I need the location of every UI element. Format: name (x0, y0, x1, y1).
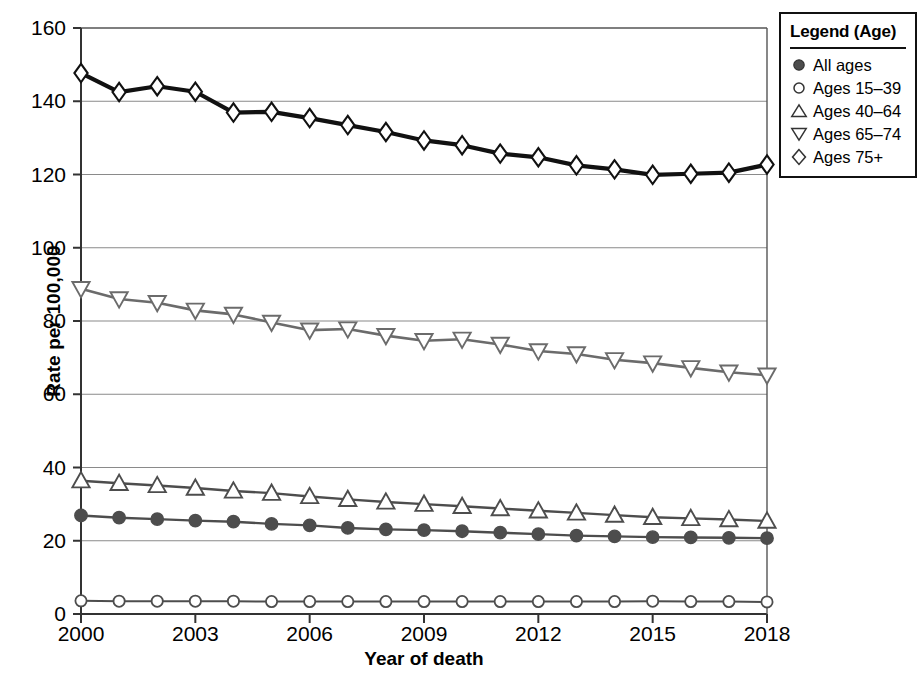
data-point-open-circle (723, 596, 734, 607)
series-ages-15-39 (75, 595, 772, 607)
data-point-filled-circle (189, 514, 201, 526)
x-tick-label: 2009 (379, 622, 469, 645)
data-point-open-circle (571, 596, 582, 607)
marker-open-circle (304, 596, 315, 607)
y-tick-label: 140 (6, 90, 66, 111)
data-point-diamond (608, 160, 621, 178)
data-point-diamond (265, 103, 278, 121)
data-point-filled-circle (761, 532, 773, 544)
chart-legend: Legend (Age) All agesAges 15–39Ages 40–6… (779, 12, 917, 178)
legend-marker-open-circle (790, 79, 808, 97)
data-point-open-circle (495, 596, 506, 607)
marker-open-circle (533, 596, 544, 607)
y-axis-tick-labels: 020406080100120140160 (0, 0, 66, 675)
data-point-open-circle (380, 596, 391, 607)
marker-open-circle (228, 596, 239, 607)
data-point-filled-circle (723, 532, 735, 544)
data-point-open-circle (304, 596, 315, 607)
legend-item: All ages (781, 53, 915, 76)
data-point-diamond (570, 156, 583, 174)
data-point-diamond (303, 109, 316, 127)
marker-filled-circle (723, 532, 735, 544)
marker-filled-circle (494, 526, 506, 538)
data-point-diamond (417, 131, 430, 149)
marker-filled-circle (227, 516, 239, 528)
data-point-filled-circle (570, 529, 582, 541)
data-point-diamond (532, 148, 545, 166)
marker-open-circle (190, 596, 201, 607)
data-point-down-triangle (758, 368, 775, 383)
data-point-filled-circle (494, 526, 506, 538)
y-tick-label: 0 (6, 603, 66, 624)
marker-diamond (722, 163, 735, 181)
y-tick-label: 40 (6, 457, 66, 478)
marker-open-circle (571, 596, 582, 607)
marker-open-circle (647, 596, 658, 607)
legend-item-label: All ages (813, 56, 872, 74)
data-point-diamond (74, 64, 87, 82)
data-point-open-circle (190, 596, 201, 607)
marker-filled-circle (342, 522, 354, 534)
marker-filled-circle (380, 523, 392, 535)
marker-open-circle (114, 596, 125, 607)
y-tick-label: 80 (6, 310, 66, 331)
data-point-filled-circle (151, 513, 163, 525)
marker-open-circle (266, 596, 277, 607)
marker-diamond (265, 103, 278, 121)
series-line (81, 73, 767, 175)
data-point-diamond (722, 163, 735, 181)
legend-title: Legend (Age) (781, 20, 915, 47)
data-point-filled-circle (303, 519, 315, 531)
y-tick-label: 20 (6, 530, 66, 551)
marker-diamond (455, 136, 468, 154)
marker-filled-circle (418, 524, 430, 536)
marker-filled-circle (761, 532, 773, 544)
marker-diamond (532, 148, 545, 166)
marker-diamond (760, 155, 773, 173)
y-tick-label: 100 (6, 237, 66, 258)
data-point-open-circle (609, 596, 620, 607)
marker-open-circle (75, 595, 86, 606)
x-tick-label: 2018 (722, 622, 812, 645)
data-point-diamond (455, 136, 468, 154)
marker-filled-circle (646, 531, 658, 543)
data-point-open-circle (457, 596, 468, 607)
data-point-diamond (494, 144, 507, 162)
marker-diamond (341, 116, 354, 134)
marker-filled-circle (265, 518, 277, 530)
legend-item-label: Ages 15–39 (813, 79, 901, 97)
series-ages-75 (74, 64, 773, 184)
legend-item-label: Ages 65–74 (813, 125, 901, 143)
marker-filled-circle (570, 529, 582, 541)
marker-filled-circle (456, 525, 468, 537)
marker-diamond (303, 109, 316, 127)
marker-filled-circle (151, 513, 163, 525)
legend-marker-up-triangle (790, 102, 808, 120)
legend-item: Ages 65–74 (781, 122, 915, 145)
marker-filled-circle (113, 511, 125, 523)
legend-marker-filled-circle (790, 56, 808, 74)
data-point-diamond (341, 116, 354, 134)
marker-diamond (112, 83, 125, 101)
data-point-diamond (379, 123, 392, 141)
marker-diamond (608, 160, 621, 178)
data-point-diamond (646, 166, 659, 184)
data-point-filled-circle (646, 531, 658, 543)
data-point-open-circle (533, 596, 544, 607)
marker-open-circle (380, 596, 391, 607)
x-tick-label: 2000 (36, 622, 126, 645)
x-tick-label: 2006 (265, 622, 355, 645)
marker-up-triangle (72, 472, 89, 487)
marker-open-circle (495, 596, 506, 607)
series-ages-65-74 (72, 282, 775, 384)
marker-diamond (151, 77, 164, 95)
marker-open-circle (152, 596, 163, 607)
marker-filled-circle (75, 509, 87, 521)
legend-item-label: Ages 40–64 (813, 102, 901, 120)
y-tick-label: 60 (6, 383, 66, 404)
data-point-filled-circle (608, 530, 620, 542)
marker-open-circle (761, 596, 772, 607)
marker-open-circle (723, 596, 734, 607)
legend-item-list: All agesAges 15–39Ages 40–64Ages 65–74Ag… (781, 53, 915, 168)
legend-marker-diamond (790, 148, 808, 166)
